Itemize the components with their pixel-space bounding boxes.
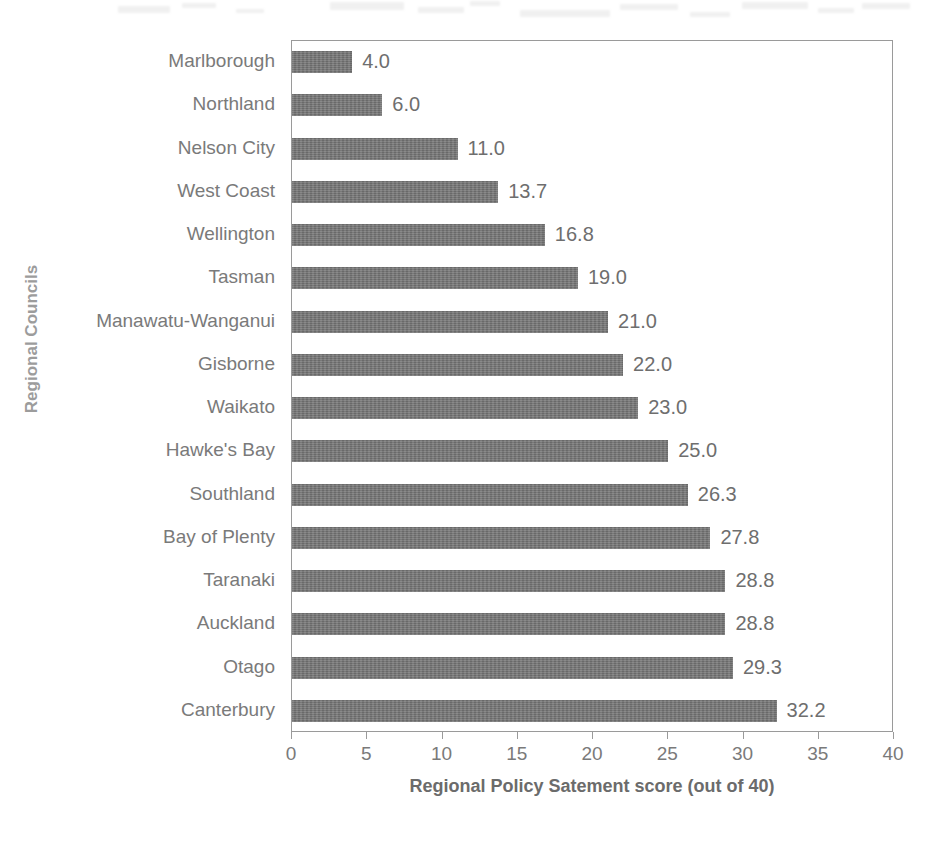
bar-value-label: 19.0 bbox=[588, 266, 627, 288]
x-axis-tick-label: 25 bbox=[657, 742, 678, 766]
bar-value-label: 32.2 bbox=[787, 699, 826, 721]
y-axis-category-label: Canterbury bbox=[0, 699, 275, 721]
bar bbox=[292, 94, 382, 116]
bar-row: 13.7 bbox=[292, 171, 894, 213]
x-axis-tick-labels: 0510152025303540 bbox=[291, 742, 893, 770]
x-axis-ticks bbox=[291, 732, 893, 740]
bar-value-label: 27.8 bbox=[720, 526, 759, 548]
y-axis-category-label: Waikato bbox=[0, 396, 275, 418]
bar-row: 29.3 bbox=[292, 647, 894, 689]
bar-value-label: 6.0 bbox=[392, 93, 420, 115]
y-axis-category-label: West Coast bbox=[0, 180, 275, 202]
x-axis-tick-label: 10 bbox=[431, 742, 452, 766]
bar-row: 16.8 bbox=[292, 214, 894, 256]
bar-value-label: 4.0 bbox=[362, 50, 390, 72]
bar-value-label: 11.0 bbox=[468, 137, 505, 159]
x-axis-tick bbox=[743, 732, 744, 739]
y-axis-category-label: Gisborne bbox=[0, 353, 275, 375]
bar-row: 32.2 bbox=[292, 690, 894, 732]
x-axis-title: Regional Policy Satement score (out of 4… bbox=[291, 776, 893, 797]
x-axis-tick bbox=[291, 732, 292, 739]
x-axis-tick-label: 0 bbox=[286, 742, 297, 766]
y-axis-category-label: Bay of Plenty bbox=[0, 526, 275, 548]
x-axis-tick-label: 30 bbox=[732, 742, 753, 766]
bar-value-label: 23.0 bbox=[648, 396, 687, 418]
x-axis-tick-label: 20 bbox=[581, 742, 602, 766]
bar bbox=[292, 224, 545, 246]
bar-value-label: 21.0 bbox=[618, 310, 657, 332]
bar-row: 6.0 bbox=[292, 84, 894, 126]
bar bbox=[292, 181, 498, 203]
x-axis-tick bbox=[517, 732, 518, 739]
bar bbox=[292, 613, 725, 635]
bar-row: 19.0 bbox=[292, 257, 894, 299]
bar bbox=[292, 440, 668, 462]
bar bbox=[292, 311, 608, 333]
bar-row: 23.0 bbox=[292, 387, 894, 429]
bar-row: 11.0 bbox=[292, 128, 894, 170]
y-axis-category-label: Otago bbox=[0, 656, 275, 678]
y-axis-category-label: Auckland bbox=[0, 612, 275, 634]
y-axis-category-label: Manawatu-Wanganui bbox=[0, 310, 275, 332]
y-axis-category-label: Nelson City bbox=[0, 137, 275, 159]
bar bbox=[292, 570, 725, 592]
bar-row: 21.0 bbox=[292, 301, 894, 343]
bar bbox=[292, 527, 710, 549]
x-axis-tick-label: 15 bbox=[506, 742, 527, 766]
x-axis-tick bbox=[442, 732, 443, 739]
regional-policy-statement-bar-chart: Regional Councils MarlboroughNorthlandNe… bbox=[0, 0, 949, 851]
bar bbox=[292, 700, 777, 722]
bar-row: 27.8 bbox=[292, 517, 894, 559]
plot-area: 4.06.011.013.716.819.021.022.023.025.026… bbox=[291, 40, 893, 732]
x-axis-tick bbox=[366, 732, 367, 739]
y-axis-category-label: Tasman bbox=[0, 266, 275, 288]
bar-value-label: 13.7 bbox=[508, 180, 547, 202]
y-axis-category-label: Southland bbox=[0, 483, 275, 505]
x-axis-tick-label: 40 bbox=[882, 742, 903, 766]
bar-value-label: 25.0 bbox=[678, 439, 717, 461]
bar-value-label: 28.8 bbox=[735, 569, 774, 591]
bar-value-label: 22.0 bbox=[633, 353, 672, 375]
bar-value-label: 26.3 bbox=[698, 483, 737, 505]
x-axis-tick bbox=[893, 732, 894, 739]
bar-row: 22.0 bbox=[292, 344, 894, 386]
y-axis-category-label: Hawke's Bay bbox=[0, 439, 275, 461]
bar-value-label: 16.8 bbox=[555, 223, 594, 245]
y-axis-category-label: Marlborough bbox=[0, 50, 275, 72]
bar bbox=[292, 354, 623, 376]
x-axis-tick-label: 5 bbox=[361, 742, 372, 766]
bar bbox=[292, 484, 688, 506]
y-axis-category-label: Northland bbox=[0, 93, 275, 115]
y-axis-category-label: Wellington bbox=[0, 223, 275, 245]
bar-row: 28.8 bbox=[292, 560, 894, 602]
x-axis-tick bbox=[592, 732, 593, 739]
bar bbox=[292, 657, 733, 679]
bar bbox=[292, 51, 352, 73]
y-axis-category-label: Taranaki bbox=[0, 569, 275, 591]
bar bbox=[292, 138, 458, 160]
y-axis-category-labels: MarlboroughNorthlandNelson CityWest Coas… bbox=[0, 40, 283, 732]
bar-value-label: 29.3 bbox=[743, 656, 782, 678]
bar-row: 4.0 bbox=[292, 41, 894, 83]
bar bbox=[292, 397, 638, 419]
x-axis-tick bbox=[818, 732, 819, 739]
x-axis-tick bbox=[667, 732, 668, 739]
x-axis-tick-label: 35 bbox=[807, 742, 828, 766]
bar-value-label: 28.8 bbox=[735, 612, 774, 634]
bar-row: 28.8 bbox=[292, 603, 894, 645]
bar bbox=[292, 267, 578, 289]
bar-row: 25.0 bbox=[292, 430, 894, 472]
bar-row: 26.3 bbox=[292, 474, 894, 516]
